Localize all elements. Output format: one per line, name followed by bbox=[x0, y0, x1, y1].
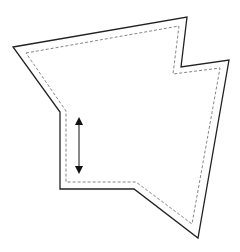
diagram-canvas bbox=[0, 0, 240, 252]
outer-outline-shape bbox=[13, 17, 229, 238]
polygon-diagram bbox=[0, 0, 240, 252]
inner-dashed-offset-outline bbox=[26, 26, 220, 224]
